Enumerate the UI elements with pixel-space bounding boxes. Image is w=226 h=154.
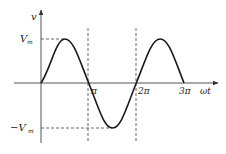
waveform-diagram: v V m −V m π 2π 3π ωt — [0, 0, 226, 154]
tick-label-2pi: 2π — [137, 86, 151, 96]
vm-label: V m — [20, 33, 33, 45]
reference-lines — [41, 28, 136, 143]
svg-text:m: m — [27, 38, 33, 45]
y-axis-label: v — [31, 11, 37, 22]
tick-label-pi: π — [90, 86, 98, 96]
neg-vm-label: −V m — [10, 122, 34, 134]
svg-text:−V: −V — [10, 122, 27, 133]
x-axis-label: ωt — [200, 86, 211, 96]
tick-label-3pi: 3π — [179, 86, 192, 96]
svg-text:m: m — [28, 127, 34, 134]
